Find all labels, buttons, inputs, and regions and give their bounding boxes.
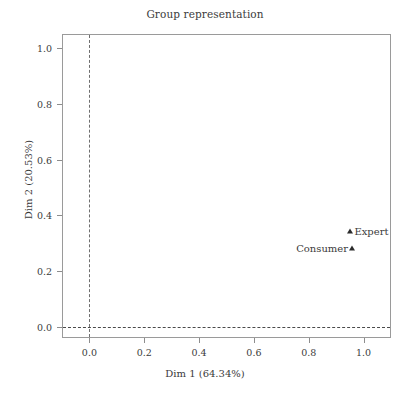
x-axis-tick [89, 338, 90, 343]
x-axis-title: Dim 1 (64.34%) [0, 368, 410, 379]
x-axis-tick-label: 0.4 [192, 347, 207, 358]
x-axis-tick-label: 0.2 [137, 347, 152, 358]
x-axis-tick [364, 338, 365, 343]
chart-title: Group representation [0, 8, 410, 20]
reference-line-horizontal [63, 327, 390, 328]
x-axis-tick [254, 338, 255, 343]
chart-canvas: Group representation 0.00.20.40.60.81.00… [0, 0, 410, 394]
y-axis-tick [57, 327, 62, 328]
y-axis-tick-label: 1.0 [20, 42, 52, 53]
x-axis-tick [309, 338, 310, 343]
y-axis-tick [57, 160, 62, 161]
y-axis-tick-label: 0.0 [20, 321, 52, 332]
data-point-label: Expert [354, 226, 388, 237]
x-axis-tick [144, 338, 145, 343]
y-axis-tick [57, 215, 62, 216]
reference-line-vertical [89, 35, 90, 337]
plot-area [62, 34, 391, 338]
y-axis-title: Dim 2 (20.53%) [23, 90, 34, 270]
y-axis-tick [57, 48, 62, 49]
x-axis-tick-label: 0.6 [246, 347, 261, 358]
x-axis-tick [199, 338, 200, 343]
y-axis-tick [57, 104, 62, 105]
data-point-marker[interactable] [347, 229, 353, 234]
data-point-marker[interactable] [349, 245, 355, 250]
x-axis-tick-label: 0.0 [82, 347, 97, 358]
y-axis-tick [57, 271, 62, 272]
data-point-label: Consumer [296, 242, 348, 253]
x-axis-tick-label: 0.8 [301, 347, 316, 358]
x-axis-tick-label: 1.0 [356, 347, 371, 358]
